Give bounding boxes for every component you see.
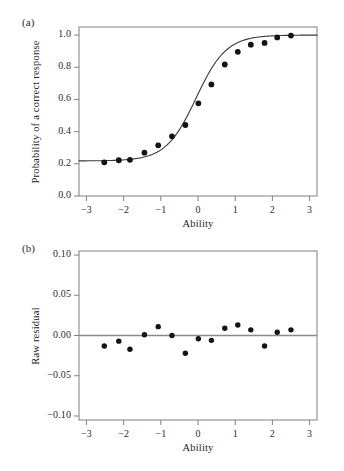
y-tick-label: 0.00 [40, 329, 71, 340]
x-tick-label: 1 [221, 204, 249, 215]
data-point [102, 343, 107, 348]
data-point [288, 327, 293, 332]
figure-container: (a) Probability of a correct response Ab… [0, 0, 344, 471]
x-tick-label: −2 [110, 204, 138, 215]
data-point [196, 336, 201, 341]
data-point [183, 351, 188, 356]
y-tick-label: 0.6 [40, 92, 71, 103]
x-tick-label: 3 [296, 428, 324, 439]
y-tick-label: 0.05 [40, 288, 71, 299]
y-tick-label: −0.10 [40, 409, 71, 420]
data-point-group [102, 322, 294, 356]
y-tick-label: 0.4 [40, 125, 71, 136]
y-tick-label: 1.0 [40, 28, 71, 39]
data-point [116, 338, 121, 343]
x-tick-label: −1 [147, 428, 175, 439]
x-tick-label: 0 [184, 428, 212, 439]
x-tick-label: 2 [258, 204, 286, 215]
y-tick-label: 0.0 [40, 189, 71, 200]
data-point [235, 322, 240, 327]
y-tick-label: 0.10 [40, 248, 71, 259]
data-point [222, 326, 227, 331]
data-point [169, 133, 175, 139]
data-point [116, 157, 122, 163]
data-point [262, 343, 267, 348]
data-point [208, 82, 214, 88]
data-point [209, 338, 214, 343]
data-point [169, 333, 174, 338]
y-tick-label: 0.2 [40, 157, 71, 168]
y-tick-label: 0.8 [40, 60, 71, 71]
data-point [182, 122, 188, 128]
data-point [235, 49, 241, 55]
data-point [142, 332, 147, 337]
x-tick-label: −1 [147, 204, 175, 215]
data-point [274, 35, 280, 41]
data-point-group [101, 33, 293, 166]
data-point [127, 157, 133, 163]
data-point [142, 150, 148, 156]
data-point [248, 42, 254, 48]
data-point [156, 324, 161, 329]
data-point [155, 142, 161, 148]
x-tick-label: 3 [296, 204, 324, 215]
x-tick-label: 1 [221, 428, 249, 439]
x-tick-label: 2 [258, 428, 286, 439]
data-point [195, 100, 201, 106]
x-tick-label: −2 [110, 428, 138, 439]
panel-a-axes-frame [79, 27, 317, 196]
x-tick-label: −3 [72, 204, 100, 215]
data-point [101, 159, 107, 165]
data-point [262, 40, 268, 46]
data-point [222, 62, 228, 68]
fitted-curve [79, 35, 317, 161]
data-point [127, 346, 132, 351]
y-tick-label: −0.05 [40, 369, 71, 380]
x-tick-label: 0 [184, 204, 212, 215]
data-point [288, 33, 294, 39]
data-point [275, 330, 280, 335]
data-point [248, 327, 253, 332]
x-tick-label: −3 [72, 428, 100, 439]
panel-a: (a) Probability of a correct response Ab… [0, 0, 344, 240]
panel-b: (b) Raw residual Ability −3−2−10123−0.10… [0, 240, 344, 471]
